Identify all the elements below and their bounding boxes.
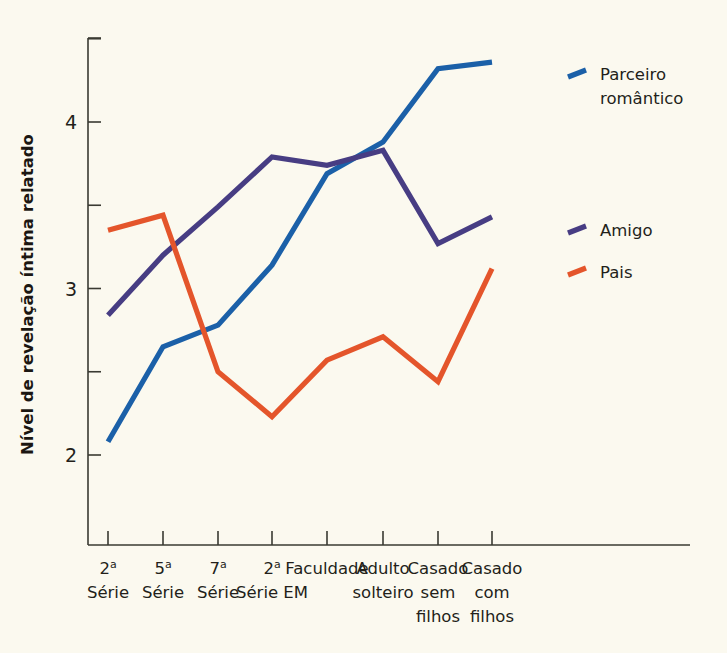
y-axis-title: Nível de revelação íntima relatado xyxy=(18,134,37,455)
legend-label-parceiro-rom-ntico: Parceiro xyxy=(600,65,666,84)
y-tick-label-2: 2 xyxy=(65,444,77,466)
x-tick-label-7-line-1: com xyxy=(474,583,509,602)
x-tick-label-5-line-1: solteiro xyxy=(353,583,414,602)
x-tick-label-0-line-1: Série xyxy=(87,583,129,602)
x-tick-label-6-line-0: Casado xyxy=(408,559,469,578)
legend-label-amigo: Amigo xyxy=(600,221,653,240)
chart-figure: 234 2aSérie5aSérie7aSérie2aSérie EMFacul… xyxy=(0,0,727,653)
x-tick-label-7-line-2: filhos xyxy=(470,607,514,626)
line-chart: 234 2aSérie5aSérie7aSérie2aSérie EMFacul… xyxy=(0,0,727,653)
y-tick-label-3: 3 xyxy=(65,278,77,300)
x-tick-label-6-line-1: sem xyxy=(421,583,456,602)
x-tick-label-1-line-1: Série xyxy=(142,583,184,602)
x-tick-label-5-line-0: Adulto xyxy=(356,559,409,578)
x-tick-label-7-line-0: Casado xyxy=(462,559,523,578)
x-tick-label-6-line-2: filhos xyxy=(416,607,460,626)
x-tick-label-2-line-1: Série xyxy=(197,583,239,602)
legend-label-pais: Pais xyxy=(600,263,633,282)
legend-label-parceiro-rom-ntico-line2: romântico xyxy=(600,89,683,108)
y-tick-label-4: 4 xyxy=(65,111,77,133)
x-tick-label-3-line-1: Série EM xyxy=(236,583,308,602)
